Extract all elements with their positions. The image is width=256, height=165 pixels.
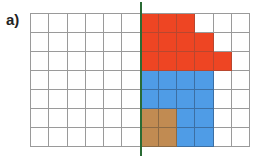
grid-cell [86, 128, 104, 147]
grid-cell [49, 14, 67, 33]
grid-cell [214, 71, 232, 90]
grid-cell-blue [159, 71, 177, 90]
grid-cell-red [195, 33, 213, 52]
grid-cell [214, 90, 232, 109]
grid-cell-blue [177, 109, 195, 128]
grid-cell [232, 33, 250, 52]
grid-cell-red [159, 52, 177, 71]
grid-cell-blue [195, 90, 213, 109]
grid-cell [104, 90, 122, 109]
grid-cell-brown [159, 109, 177, 128]
grid-cell-red [141, 14, 159, 33]
grid-cell [195, 14, 213, 33]
grid-cell [104, 128, 122, 147]
grid-cell [232, 128, 250, 147]
grid-cell [68, 71, 86, 90]
grid-cell [86, 109, 104, 128]
grid-cell [232, 14, 250, 33]
grid-cell-red [177, 52, 195, 71]
grid-cell [68, 90, 86, 109]
grid-cell-blue [177, 90, 195, 109]
grid-cell [31, 52, 49, 71]
grid-cell [68, 33, 86, 52]
grid-cell [232, 90, 250, 109]
grid-cell [31, 71, 49, 90]
grid-cell-blue [141, 90, 159, 109]
grid-cell [49, 128, 67, 147]
grid-cell [122, 14, 140, 33]
grid-cell-red [177, 33, 195, 52]
grid-cell-red [177, 14, 195, 33]
grid-cell [86, 71, 104, 90]
grid-cell [68, 52, 86, 71]
grid-cell [214, 33, 232, 52]
grid-cell [122, 71, 140, 90]
grid-cell [104, 52, 122, 71]
grid-cell [68, 14, 86, 33]
grid-cell [49, 52, 67, 71]
grid-cell [232, 71, 250, 90]
grid-cell [104, 33, 122, 52]
grid-cell [68, 128, 86, 147]
grid-cell [68, 109, 86, 128]
grid-cell [86, 90, 104, 109]
grid-cell [122, 128, 140, 147]
grid-cell-brown [141, 128, 159, 147]
grid-cell-blue [177, 128, 195, 147]
grid-cell [214, 14, 232, 33]
grid-cell [86, 52, 104, 71]
grid-cell-red [141, 52, 159, 71]
grid-cell [49, 109, 67, 128]
grid-cell [104, 109, 122, 128]
grid-cell-brown [141, 109, 159, 128]
grid-cell [31, 109, 49, 128]
grid-cell-blue [195, 71, 213, 90]
grid-cell [232, 109, 250, 128]
symmetry-axis-line [140, 2, 142, 156]
grid-cell [49, 71, 67, 90]
grid-cell [86, 14, 104, 33]
grid-cell-red [195, 52, 213, 71]
grid-cell [122, 33, 140, 52]
grid-cell-blue [141, 71, 159, 90]
grid-cell [122, 52, 140, 71]
grid-cell-red [214, 52, 232, 71]
grid-cell [214, 128, 232, 147]
grid-cell [31, 90, 49, 109]
grid-cell-brown [159, 128, 177, 147]
grid-cell [104, 14, 122, 33]
grid-cell [122, 90, 140, 109]
grid-cell [232, 52, 250, 71]
grid-cell-red [159, 33, 177, 52]
grid-cell [31, 33, 49, 52]
grid-cell [31, 14, 49, 33]
grid-cell [86, 33, 104, 52]
grid-cell-red [159, 14, 177, 33]
grid-cell-red [141, 33, 159, 52]
grid-cell [31, 128, 49, 147]
grid-cell [104, 71, 122, 90]
figure-label: a) [6, 11, 19, 28]
grid-cell [214, 109, 232, 128]
grid-cell-blue [177, 71, 195, 90]
grid-cell [122, 109, 140, 128]
grid-cell-blue [195, 128, 213, 147]
grid-cell-blue [195, 109, 213, 128]
grid-cell-blue [159, 90, 177, 109]
grid-cell [49, 33, 67, 52]
grid-cell [49, 90, 67, 109]
